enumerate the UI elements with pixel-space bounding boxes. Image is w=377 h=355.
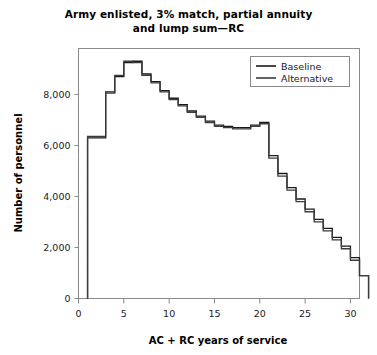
x-axis-title: AC + RC years of service: [149, 335, 288, 346]
x-tick-label: 30: [344, 308, 356, 319]
y-tick-label: 8,000: [43, 89, 70, 100]
chart-figure: Army enlisted, 3% match, partial annuity…: [0, 0, 377, 355]
x-tick-label: 5: [121, 308, 127, 319]
chart-title: Army enlisted, 3% match, partial annuity…: [0, 7, 377, 35]
y-tick-label: 4,000: [43, 191, 70, 202]
y-tick-label: 2,000: [43, 242, 70, 253]
y-tick-label: 0: [64, 293, 70, 304]
x-tick-label: 25: [299, 308, 311, 319]
x-tick-label: 0: [75, 308, 81, 319]
legend-label-alternative: Alternative: [281, 73, 333, 84]
x-tick-label: 15: [208, 308, 220, 319]
y-axis-ticks: 02,0004,0006,0008,000: [43, 89, 78, 304]
x-tick-label: 10: [163, 308, 175, 319]
chart-legend: Baseline Alternative: [251, 57, 350, 87]
chart-title-line-2: and lump sum—RC: [0, 21, 377, 35]
chart-canvas: 02,0004,0006,0008,000 051015202530 AC + …: [0, 0, 377, 355]
x-tick-label: 20: [254, 308, 266, 319]
chart-title-line-1: Army enlisted, 3% match, partial annuity: [0, 7, 377, 21]
y-tick-label: 6,000: [43, 140, 70, 151]
x-axis-ticks: 051015202530: [75, 299, 356, 319]
y-axis-title: Number of personnel: [13, 113, 24, 232]
legend-label-baseline: Baseline: [281, 61, 321, 72]
